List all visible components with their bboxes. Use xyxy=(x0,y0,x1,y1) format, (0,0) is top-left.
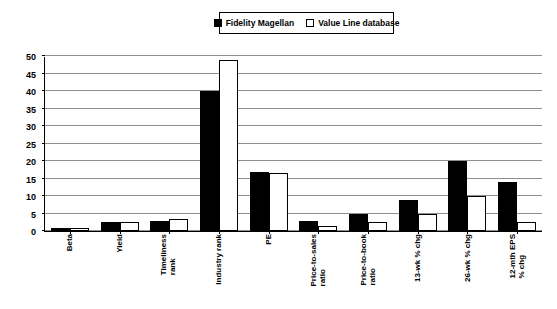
y-tick-label: 30 xyxy=(26,123,36,132)
hollow-square-icon xyxy=(306,19,314,27)
bar-group xyxy=(443,57,493,231)
x-tick-mark xyxy=(517,231,518,234)
y-axis: 0 5 10 15 20 25 30 35 40 45 50 xyxy=(0,57,40,232)
x-axis-label: Price-to-salesratio xyxy=(309,234,327,286)
x-label-cell: Price-to-bookratio xyxy=(343,234,393,309)
bar xyxy=(169,219,188,231)
bar xyxy=(368,222,387,231)
x-tick-mark xyxy=(219,231,220,234)
x-label-cell: Beta xyxy=(44,234,94,309)
x-axis-label-line: ratio xyxy=(368,234,377,286)
x-axis-label-line: % chg xyxy=(517,234,526,278)
bar xyxy=(200,91,219,231)
y-tick-mark xyxy=(42,213,45,214)
y-tick-mark xyxy=(42,178,45,179)
y-tick-mark xyxy=(42,90,45,91)
x-label-cell: Industry rank xyxy=(193,234,243,309)
x-label-cell: 13-wk % chg xyxy=(393,234,443,309)
x-label-cell: Timelinessrank xyxy=(144,234,194,309)
x-tick-mark xyxy=(70,231,71,234)
y-tick-label: 50 xyxy=(26,53,36,62)
x-label-cell: Price-to-salesratio xyxy=(293,234,343,309)
x-axis-label: Industry rank xyxy=(214,234,223,285)
x-tick-mark xyxy=(368,231,369,234)
bar xyxy=(498,182,517,231)
bar-groups xyxy=(45,57,542,231)
x-tick-mark xyxy=(418,231,419,234)
bar-group xyxy=(393,57,443,231)
x-axis-label: Yield xyxy=(114,234,123,253)
x-axis-label-line: Industry rank xyxy=(214,234,223,285)
x-axis-label-line: Price-to-sales xyxy=(309,234,318,286)
legend-entry-fidelity-magellan: Fidelity Magellan xyxy=(214,19,295,28)
y-tick-mark xyxy=(42,125,45,126)
bar xyxy=(70,228,89,232)
y-tick-label: 35 xyxy=(26,105,36,114)
bar xyxy=(467,196,486,231)
y-tick-mark xyxy=(42,55,45,56)
x-axis-label: Price-to-bookratio xyxy=(359,234,377,286)
x-label-cell: Yield xyxy=(94,234,144,309)
x-axis-label: PE xyxy=(264,234,273,245)
chart-legend: Fidelity Magellan Value Line database xyxy=(219,12,394,34)
chart-plot-area xyxy=(44,57,542,232)
x-label-cell: PE xyxy=(243,234,293,309)
y-tick-label: 15 xyxy=(26,175,36,184)
y-tick-label: 5 xyxy=(31,210,36,219)
x-tick-mark xyxy=(120,231,121,234)
bar xyxy=(150,221,169,232)
bar-group xyxy=(294,57,344,231)
bar xyxy=(349,214,368,232)
x-tick-mark xyxy=(318,231,319,234)
y-tick-mark xyxy=(42,230,45,231)
x-axis-label: Beta xyxy=(64,234,73,251)
legend-label-fidelity-magellan: Fidelity Magellan xyxy=(226,19,295,28)
y-tick-label: 25 xyxy=(26,140,36,149)
bar-group xyxy=(194,57,244,231)
y-tick-label: 40 xyxy=(26,88,36,97)
filled-square-icon xyxy=(214,19,222,27)
bar xyxy=(418,214,437,232)
bar xyxy=(299,221,318,232)
x-axis: BetaYieldTimelinessrankIndustry rankPEPr… xyxy=(44,234,542,309)
y-tick-mark xyxy=(42,195,45,196)
y-tick-mark xyxy=(42,143,45,144)
bar xyxy=(51,228,70,232)
x-axis-label: Timelinessrank xyxy=(159,234,177,275)
y-tick-label: 0 xyxy=(31,228,36,237)
legend-entry-value-line-database: Value Line database xyxy=(306,19,399,28)
bar-group xyxy=(492,57,542,231)
x-axis-label-line: Beta xyxy=(64,234,73,251)
x-axis-label-line: Price-to-book xyxy=(359,234,368,286)
y-tick-mark xyxy=(42,108,45,109)
y-tick-label: 45 xyxy=(26,70,36,79)
x-axis-label-line: ratio xyxy=(318,234,327,286)
x-axis-label-line: 13-wk % chg xyxy=(413,234,422,282)
bar-group xyxy=(244,57,294,231)
y-tick-label: 20 xyxy=(26,158,36,167)
x-axis-label-line: 26-wk % chg xyxy=(463,234,472,282)
bar-group xyxy=(45,57,95,231)
x-label-cell: 12-mth EPS% chg xyxy=(492,234,542,309)
x-axis-label-line: PE xyxy=(264,234,273,245)
bar xyxy=(269,173,288,231)
x-axis-label-line: rank xyxy=(168,234,177,275)
bar xyxy=(250,172,269,232)
bar xyxy=(120,222,139,231)
plot-frame xyxy=(44,57,542,232)
legend-label-value-line-database: Value Line database xyxy=(318,19,399,28)
bar xyxy=(399,200,418,232)
x-axis-label: 13-wk % chg xyxy=(413,234,422,282)
bar-group xyxy=(343,57,393,231)
x-axis-label-line: Yield xyxy=(114,234,123,253)
gridline xyxy=(45,55,542,56)
bar-group xyxy=(95,57,145,231)
y-tick-mark xyxy=(42,73,45,74)
x-axis-label: 12-mth EPS% chg xyxy=(508,234,526,278)
bar xyxy=(101,222,120,231)
bar xyxy=(517,222,536,231)
bar xyxy=(318,226,337,231)
bar xyxy=(448,161,467,231)
x-tick-mark xyxy=(269,231,270,234)
y-tick-mark xyxy=(42,160,45,161)
